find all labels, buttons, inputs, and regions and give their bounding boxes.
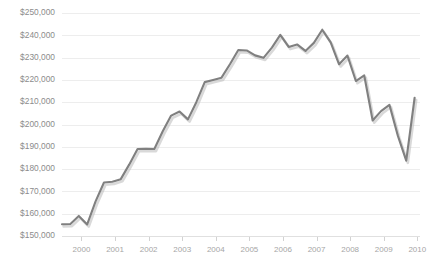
x-axis-tickmarks-group bbox=[82, 237, 418, 241]
x-axis-labels-group: 2000200120022003200420052006200720082009… bbox=[73, 245, 427, 254]
x-axis-tick-label: 2007 bbox=[308, 245, 326, 254]
chart-container: $150,000$160,000$170,000$180,000$190,000… bbox=[0, 0, 431, 268]
x-axis-tick-label: 2002 bbox=[140, 245, 158, 254]
gridlines-group bbox=[62, 14, 420, 237]
x-axis-tick-label: 2005 bbox=[240, 245, 258, 254]
x-axis-tick-label: 2000 bbox=[73, 245, 91, 254]
x-axis-tick-label: 2001 bbox=[106, 245, 124, 254]
x-axis-tick-label: 2004 bbox=[207, 245, 225, 254]
y-axis-tick-label: $190,000 bbox=[20, 141, 55, 151]
y-axis-tick-label: $150,000 bbox=[20, 230, 55, 240]
y-axis-tick-label: $210,000 bbox=[20, 96, 55, 106]
line-chart: $150,000$160,000$170,000$180,000$190,000… bbox=[0, 0, 431, 268]
y-axis-tick-label: $180,000 bbox=[20, 163, 55, 173]
y-axis-tick-label: $160,000 bbox=[20, 208, 55, 218]
y-axis-tick-label: $220,000 bbox=[20, 74, 55, 84]
y-axis-labels-group: $150,000$160,000$170,000$180,000$190,000… bbox=[20, 7, 55, 240]
x-axis-tick-label: 2006 bbox=[274, 245, 292, 254]
x-axis-tick-label: 2010 bbox=[408, 245, 426, 254]
x-axis-tick-label: 2003 bbox=[173, 245, 191, 254]
x-axis-tick-label: 2009 bbox=[375, 245, 393, 254]
y-axis-tick-label: $250,000 bbox=[20, 7, 55, 17]
x-axis-tick-label: 2008 bbox=[341, 245, 359, 254]
y-axis-tick-label: $170,000 bbox=[20, 186, 55, 196]
y-axis-tick-label: $240,000 bbox=[20, 30, 55, 40]
y-axis-tick-label: $230,000 bbox=[20, 52, 55, 62]
series-line-shadow bbox=[64, 32, 417, 227]
y-axis-tick-label: $200,000 bbox=[20, 119, 55, 129]
